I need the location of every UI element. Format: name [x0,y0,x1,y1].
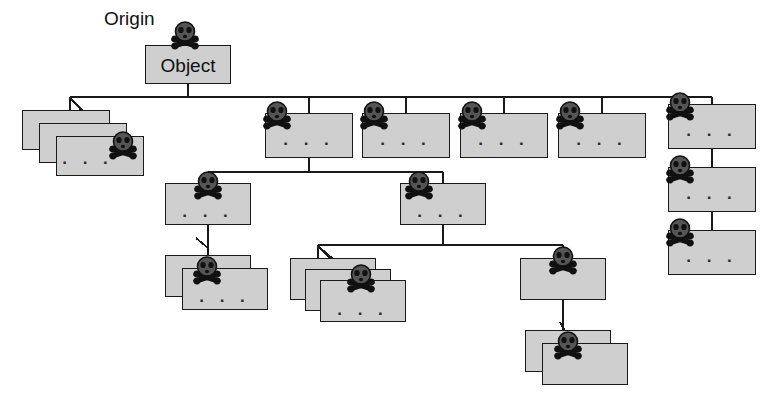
ellipsis-label: · · · [320,305,406,322]
skull-and-crossbones-icon [455,100,489,130]
skull-and-crossbones-icon [106,130,140,160]
edge-r3l-fan [196,238,208,248]
origin-label: Origin [104,8,155,30]
skull-and-crossbones-icon [663,154,697,184]
ellipsis-label: · · · [558,135,646,152]
skull-and-crossbones-icon [190,255,224,285]
skull-and-crossbones-icon [553,100,587,130]
skull-and-crossbones-icon [357,100,391,130]
skull-and-crossbones-icon [191,170,225,200]
skull-and-crossbones-icon [551,330,585,360]
ellipsis-label: · · · [182,292,268,309]
ellipsis-label: · · · [400,207,486,224]
tree-diagram-canvas: Object Origin · · · · · · [0,0,770,400]
ellipsis-label: · · · [668,189,756,206]
ellipsis-label: · · · [265,135,353,152]
skull-and-crossbones-icon [546,245,580,275]
skull-and-crossbones-icon [168,20,202,50]
skull-and-crossbones-icon [260,100,294,130]
ellipsis-label: · · · [165,207,251,224]
skull-and-crossbones-icon [344,263,378,293]
ellipsis-label: · · · [460,135,548,152]
edge-layer [0,0,770,400]
skull-and-crossbones-icon [663,91,697,121]
ellipsis-label: · · · [362,135,450,152]
root-box-label: Object [145,56,231,75]
ellipsis-label: · · · [668,126,756,143]
skull-and-crossbones-icon [663,217,697,247]
skull-and-crossbones-icon [402,170,436,200]
ellipsis-label: · · · [668,252,756,269]
